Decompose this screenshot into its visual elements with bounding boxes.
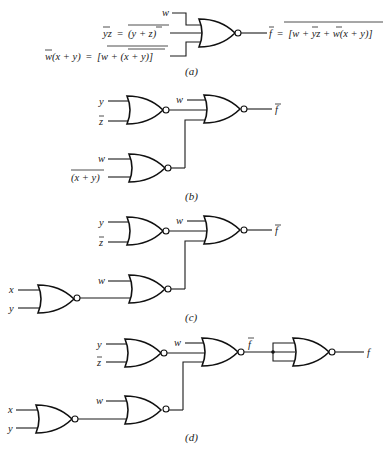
label-w: w: [174, 337, 181, 348]
caption-a: (a): [185, 65, 198, 78]
panel-c: y z w w x y f (c): [8, 215, 281, 324]
wire: [185, 120, 206, 168]
wire: [273, 352, 295, 361]
nor-gate-3: [129, 275, 165, 303]
panel-a: w yz = (y + z) w(x + y) = [w + (x + y)] …: [45, 7, 383, 78]
input-wire-w: [172, 13, 202, 25]
wire: [183, 362, 204, 410]
inversion-bubble: [165, 286, 171, 292]
label-w: w: [162, 7, 169, 18]
label-yz: yz = (y + z): [102, 28, 157, 40]
inversion-bubble: [241, 227, 247, 233]
label-xy: (x + y): [71, 172, 100, 184]
label-z: z: [98, 116, 103, 127]
label-w: w: [96, 395, 103, 406]
nor-gate-2: [204, 216, 240, 244]
nor-gate-4: [36, 405, 72, 433]
label-y: y: [7, 423, 13, 434]
inversion-bubble: [163, 228, 169, 234]
label-y: y: [96, 339, 102, 350]
label-output-f: f = [w + yz + w(x + y)]: [269, 28, 373, 40]
label-output-f: f: [275, 104, 280, 115]
caption-c: (c): [185, 311, 198, 324]
inversion-bubble: [161, 350, 167, 356]
nor-gate-1: [127, 96, 163, 124]
caption-b: (b): [185, 190, 198, 203]
label-y: y: [98, 217, 104, 228]
label-z: z: [98, 237, 103, 248]
label-x: x: [7, 404, 13, 415]
label-output-f: f: [367, 347, 372, 358]
caption-d: (d): [185, 431, 198, 444]
nor-gate: [199, 19, 235, 47]
inversion-bubble: [163, 406, 169, 412]
nor-gate-1: [127, 217, 163, 245]
label-w: w: [176, 215, 183, 226]
nor-gate-4: [38, 285, 74, 313]
nor-gate-2: [202, 338, 238, 366]
input-wire-wxy: [170, 42, 202, 56]
label-w: w: [98, 153, 105, 164]
label-y: y: [8, 303, 14, 314]
label-output-f: f: [275, 225, 280, 236]
panel-d: y z w w x y f f (d): [7, 337, 372, 444]
label-y: y: [98, 96, 104, 107]
inversion-bubble: [74, 295, 80, 301]
inversion-bubble: [235, 30, 241, 36]
label-wxy: w(x + y) = [w + (x + y)]: [45, 51, 153, 63]
inversion-bubble: [163, 107, 169, 113]
label-x: x: [8, 284, 14, 295]
label-w: w: [98, 275, 105, 286]
inversion-bubble: [241, 106, 247, 112]
nor-gate-3: [125, 396, 161, 424]
wire: [185, 241, 206, 289]
label-z: z: [96, 357, 101, 368]
nor-gate-1: [125, 339, 161, 367]
nor-gate-inverter: [293, 338, 329, 366]
inversion-bubble: [165, 165, 171, 171]
wire: [273, 343, 295, 352]
label-w: w: [176, 94, 183, 105]
inversion-bubble: [329, 349, 335, 355]
label-f-bar: f: [248, 339, 253, 350]
inversion-bubble: [72, 416, 78, 422]
inversion-bubble: [238, 349, 244, 355]
nor-gate-3: [129, 154, 165, 182]
panel-b: y z w w (x + y) f (b): [71, 94, 281, 203]
nor-gate-diagram: w yz = (y + z) w(x + y) = [w + (x + y)] …: [0, 0, 384, 450]
nor-gate-2: [204, 95, 240, 123]
